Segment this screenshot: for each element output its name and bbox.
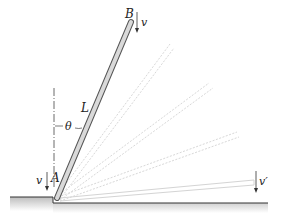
theta-arc-leader	[75, 128, 82, 129]
label-velocity-B: v	[141, 17, 147, 28]
label-velocity-final: v′	[259, 176, 268, 187]
rod-AB	[57, 22, 131, 198]
falling-rod-diagram: B v L θ v A v′	[0, 0, 286, 220]
ghost-rod-4	[60, 180, 254, 201]
label-L: L	[81, 102, 89, 114]
label-A: A	[51, 172, 60, 184]
velocity-arrow-final	[254, 171, 258, 193]
label-velocity-A: v	[36, 175, 42, 186]
label-B: B	[125, 8, 134, 20]
label-theta: θ	[65, 121, 72, 132]
velocity-arrow-B	[135, 12, 139, 33]
ghost-rod-3	[58, 132, 239, 201]
diagram-canvas	[0, 0, 286, 220]
ground	[10, 197, 268, 213]
velocity-arrow-A	[45, 172, 49, 191]
